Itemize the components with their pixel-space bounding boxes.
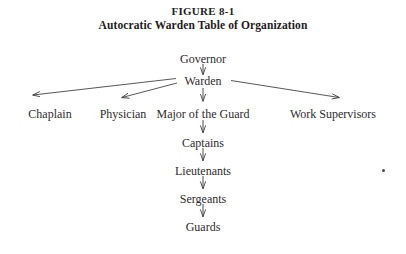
figure-organization-chart: FIGURE 8-1 Autocratic Warden Table of Or… — [0, 0, 406, 254]
node-warden: Warden — [184, 74, 221, 88]
node-captains: Captains — [182, 136, 224, 150]
node-work-supervisors: Work Supervisors — [290, 107, 376, 121]
node-major-of-the-guard: Major of the Guard — [157, 107, 250, 121]
edge-warden-chaplain — [33, 79, 176, 96]
edge-warden-work-supervisors — [231, 81, 339, 98]
node-governor: Governor — [180, 52, 226, 66]
node-physician: Physician — [100, 107, 147, 121]
node-guards: Guards — [186, 220, 221, 234]
node-chaplain: Chaplain — [28, 107, 71, 121]
edge-warden-physician — [122, 83, 177, 98]
node-lieutenants: Lieutenants — [175, 164, 231, 178]
connector-lines — [0, 0, 406, 254]
node-sergeants: Sergeants — [180, 192, 226, 206]
scan-artifact-speck — [382, 169, 385, 172]
